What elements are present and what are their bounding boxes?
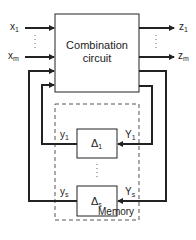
next-state-Y1-label: Y1: [125, 130, 136, 143]
next-state-Ys-label: Ys: [125, 187, 135, 200]
delay-1-label: Δ1: [91, 138, 102, 152]
state-y1-label: y1: [60, 130, 69, 143]
circuit-label-line2: circuit: [55, 52, 139, 65]
state-ys-label: ys: [60, 187, 69, 200]
circuit-label-line1: Combination: [55, 39, 139, 52]
output-zm-label: zm: [178, 51, 189, 64]
combination-circuit-label: Combination circuit: [55, 39, 139, 65]
memory-label: Memory: [98, 207, 134, 217]
input-xm-label: xm: [8, 51, 19, 64]
input-x1-label: x1: [10, 22, 19, 35]
output-z1-label: z1: [179, 22, 188, 35]
